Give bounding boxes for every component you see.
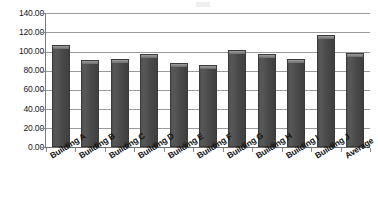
gridline-120: [46, 32, 370, 33]
bar-highlight: [347, 54, 363, 57]
y-tick-label-0: 0.00: [0, 143, 44, 152]
y-tick-label-120: 120.00: [0, 28, 44, 37]
bar-highlight: [288, 60, 304, 63]
bar-highlight: [259, 55, 275, 58]
bar-highlight: [229, 51, 245, 54]
y-tick-label-40: 40.00: [0, 105, 44, 114]
y-tick-label-140: 140.00: [0, 9, 44, 18]
x-tickmark-10: [341, 148, 342, 152]
bar-highlight: [112, 60, 128, 63]
bar-highlight: [171, 64, 187, 67]
bar-building-g: [228, 50, 246, 147]
bar-highlight: [53, 46, 69, 49]
bar-highlight: [82, 61, 98, 64]
bar-average: [346, 53, 364, 147]
gridline-140: [46, 13, 370, 14]
bar-highlight: [200, 66, 216, 69]
bar-building-j: [317, 35, 335, 147]
x-tickmark-8: [282, 148, 283, 152]
bar-highlight: [318, 36, 334, 39]
x-tickmark-end: [370, 148, 371, 152]
plot-area: [46, 13, 370, 147]
x-tickmark-6: [223, 148, 224, 152]
y-tick-label-20: 20.00: [0, 124, 44, 133]
y-tick-label-80: 80.00: [0, 66, 44, 75]
scan-artifact: [196, 2, 210, 7]
bar-chart: 140.00 120.00 100.00 80.00 60.00 40.00 2…: [0, 0, 378, 206]
y-axis-labels: 140.00 120.00 100.00 80.00 60.00 40.00 2…: [0, 0, 44, 206]
bar-building-a: [52, 45, 70, 147]
y-tick-label-60: 60.00: [0, 85, 44, 94]
bar-highlight: [141, 55, 157, 58]
y-tick-label-100: 100.00: [0, 47, 44, 56]
